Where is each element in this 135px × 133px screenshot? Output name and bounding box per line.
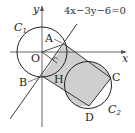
y-axis-label: y xyxy=(32,3,40,16)
point-b-label: B xyxy=(19,76,27,89)
point-o-label: O xyxy=(31,52,40,65)
point-d-label: D xyxy=(85,111,94,124)
point-h-label: H xyxy=(54,73,64,86)
circle-c1-label: C1 xyxy=(14,21,27,35)
circle-c2-label: C2 xyxy=(108,103,121,117)
leader-a xyxy=(54,39,62,43)
point-c-label: C xyxy=(112,71,120,84)
line-equation-label: 4x−3y−6=0 xyxy=(64,5,126,16)
y-axis-arrow xyxy=(40,5,44,11)
geometry-diagram: y x 4x−3y−6=0 C1 C2 A O B H C D xyxy=(0,0,135,133)
point-a-label: A xyxy=(44,32,54,45)
x-axis-label: x xyxy=(122,52,129,65)
